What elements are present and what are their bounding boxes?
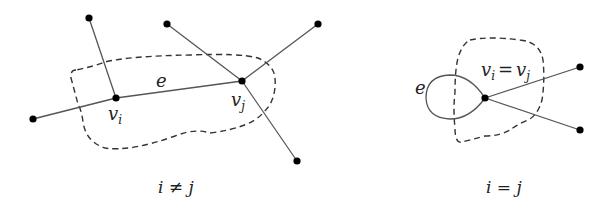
node-bottom-right [293, 157, 300, 164]
node-top-left [85, 14, 92, 21]
left-diagram: e vi vj i ≠ j [29, 14, 321, 197]
node-upper-right [576, 63, 583, 70]
edge-label-e: e [156, 70, 167, 91]
diagram-canvas: e vi vj i ≠ j e vi=vj i = j [0, 0, 615, 220]
edge-top-right [242, 24, 318, 81]
node-top-middle [163, 20, 170, 27]
node-top-right [314, 20, 321, 27]
loop-label-e: e [415, 77, 426, 98]
caption-right: i = j [486, 177, 522, 197]
node-left [29, 115, 36, 122]
node-lower-right [576, 126, 583, 133]
right-diagram: e vi=vj i = j [415, 38, 584, 197]
vertex-set-boundary-right [454, 38, 544, 142]
edge-bottom-right [242, 81, 297, 161]
caption-left: i ≠ j [158, 177, 194, 197]
edge-left [33, 98, 116, 119]
vertex-label-vi-eq-vj: vi=vj [481, 59, 530, 83]
vertex-label-vi: vi [108, 103, 122, 127]
vertex-label-vj: vj [231, 89, 245, 113]
node-vi [112, 94, 119, 101]
edge-lower-right [485, 98, 580, 130]
node-vj [238, 77, 245, 84]
edge-top-left [89, 18, 116, 98]
edge-top-middle [167, 24, 242, 81]
node-vi-equals-vj [481, 94, 488, 101]
edge-e [116, 81, 242, 98]
